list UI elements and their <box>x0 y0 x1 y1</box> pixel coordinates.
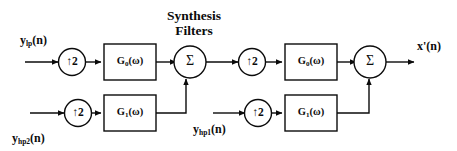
input-label-y-hp1-tail: (n) <box>211 122 226 136</box>
filter-g1-stage1-sub: 1 <box>125 111 129 119</box>
output-label-x-prime: x'(n) <box>417 40 441 52</box>
filter-g1-stage1-arg: (ω) <box>129 106 144 117</box>
wire-g1-to-adder1 <box>156 79 186 113</box>
diagram-title-line2: Filters <box>140 23 248 38</box>
diagram-title-line1: Synthesis <box>140 8 248 23</box>
filter-g1-stage2-sub: 1 <box>306 111 310 119</box>
filter-g0-stage2-arg: (ω) <box>310 55 325 66</box>
filter-g1-stage1-name: G <box>117 106 125 117</box>
diagram-title: Synthesis Filters <box>140 8 248 38</box>
input-label-y-hp2-tail: (n) <box>30 131 45 145</box>
filter-g1-stage2-label: G1(ω) <box>285 107 337 118</box>
input-label-y-lp: ylp(n) <box>20 34 47 46</box>
upsampler-stage2-highpass-label: ↑2 <box>244 107 272 119</box>
input-label-y-hp2-sub: hp2 <box>18 137 30 146</box>
upsampler-stage1-lowpass-label: ↑2 <box>58 56 86 68</box>
filter-g0-stage1-sub: 0 <box>125 60 129 68</box>
adder-stage1-label: Σ <box>174 54 206 68</box>
input-label-y-hp2: yhp2(n) <box>12 132 45 144</box>
filter-g0-stage2-sub: 0 <box>306 60 310 68</box>
adder-stage2-label: Σ <box>354 54 386 68</box>
synthesis-filter-bank-diagram: Synthesis Filters ylp(n) yhp2(n) yhp1(n)… <box>0 0 457 151</box>
input-label-y-hp1-sub: hp1 <box>199 128 211 137</box>
input-label-y-lp-sub: lp <box>26 39 32 48</box>
filter-g1-stage1-label: G1(ω) <box>104 107 156 118</box>
upsampler-stage1-highpass-label: ↑2 <box>64 107 92 119</box>
filter-g0-stage1-name: G <box>117 55 125 66</box>
filter-g0-stage2-name: G <box>298 55 306 66</box>
wire-g1b-to-adder2 <box>337 79 369 113</box>
upsampler-stage2-lowpass-label: ↑2 <box>238 56 266 68</box>
filter-g0-stage1-arg: (ω) <box>129 55 144 66</box>
filter-g0-stage2-label: G0(ω) <box>285 56 337 67</box>
filter-g1-stage2-arg: (ω) <box>310 106 325 117</box>
filter-g1-stage2-name: G <box>298 106 306 117</box>
filter-g0-stage1-label: G0(ω) <box>104 56 156 67</box>
input-label-y-hp1: yhp1(n) <box>193 123 226 135</box>
input-label-y-lp-tail: (n) <box>32 33 47 47</box>
